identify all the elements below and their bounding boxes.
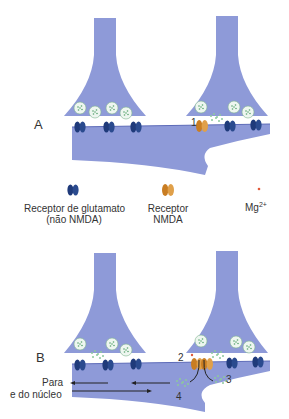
panel-a [64,16,270,175]
panel-a-label: A [34,119,43,130]
panel-b-label: B [36,352,45,363]
legend-glutamate-line1: Receptor de glutamato [24,203,124,214]
postsynaptic-dendrite-a [72,124,270,175]
legend-glutamate-receptor: Receptor de glutamato (não NMDA) [24,203,124,225]
legend-nmda-line2: NMDA [143,214,193,225]
postsynaptic-dendrite-b [72,361,270,412]
mg-superscript: 2+ [259,201,267,208]
step-1-label: 1 [191,117,197,128]
legend-mg-ion: Mg2+ [245,199,267,213]
legend-glutamate-line2: (não NMDA) [24,214,124,225]
panel-b [64,251,270,412]
step-3-label: 3 [226,374,232,385]
arrow-text-nucleus: e do núcleo [10,389,62,400]
legend-nmda-line1: Receptor [143,203,193,214]
legend-nmda-receptor: Receptor NMDA [143,203,193,225]
legend-icons [67,184,260,196]
arrow-text-para: Para [42,377,63,388]
step-4-label: 4 [176,391,182,402]
presynaptic-terminal-right [186,16,268,116]
presynaptic-terminal-left [64,18,146,116]
presynaptic-terminal-left-b [64,253,146,353]
step-2-label: 2 [178,352,184,363]
mg-text: Mg [245,202,259,213]
